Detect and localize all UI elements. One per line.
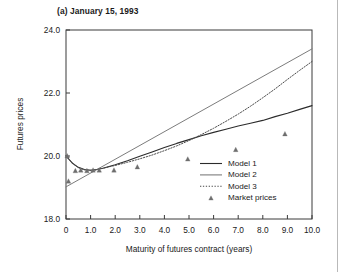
series-line-model-2 [66,49,312,187]
x-tick-label: 2.0 [109,225,121,235]
legend-label: Model 3 [228,182,257,191]
y-tick-label: 18.0 [44,214,61,224]
x-tick-label: 4.0 [159,225,171,235]
series-line-model-3 [66,62,312,171]
plot-frame [66,30,312,219]
y-axis-tick-labels: 18.020.022.024.0 [44,25,61,224]
market-price-point [85,168,90,172]
x-axis-ticks [66,215,312,219]
x-tick-label: 10.0 [304,225,321,235]
chart-plot: 18.020.022.024.0 01.02.03.04.05.06.07.08… [0,0,338,272]
legend-marker-icon [209,196,213,200]
market-price-point [283,131,288,135]
y-tick-label: 20.0 [44,151,61,161]
y-axis-ticks [66,30,70,219]
market-price-point [112,168,117,172]
x-axis-tick-labels: 01.02.03.04.05.06.07.08.09.010.0 [64,225,321,235]
y-tick-label: 24.0 [44,25,61,35]
market-price-point [233,147,238,151]
market-price-point [185,157,190,161]
market-price-point [66,179,71,183]
x-tick-label: 3.0 [134,225,146,235]
x-tick-label: 5.0 [183,225,195,235]
market-price-point [73,168,78,172]
data-series-layer [66,49,312,187]
x-axis-title: Maturity of futures contract (years) [126,244,253,254]
legend-label: Model 1 [228,159,257,168]
x-tick-label: 1.0 [85,225,97,235]
x-tick-label: 0 [64,225,69,235]
x-tick-label: 6.0 [208,225,220,235]
figure-panel: (a) January 15, 1993 18.020.022.024.0 01… [0,0,338,272]
legend-label: Market prices [228,193,277,202]
x-tick-label: 8.0 [257,225,269,235]
y-axis-title: Futures prices [15,98,25,151]
legend-label: Model 2 [228,170,257,179]
x-tick-label: 7.0 [232,225,244,235]
y-tick-label: 22.0 [44,88,61,98]
chart-legend: Model 1Model 2Model 3Market prices [200,159,277,202]
x-tick-label: 9.0 [282,225,294,235]
market-price-point [135,165,140,169]
